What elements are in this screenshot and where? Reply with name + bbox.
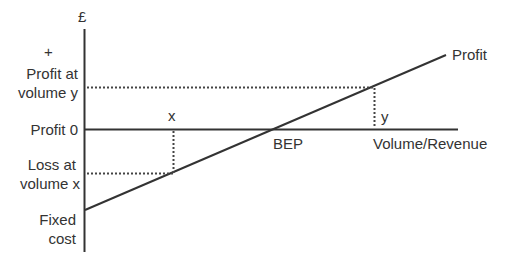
loss-at-x-line2: volume x <box>0 174 80 193</box>
profit-at-y-line1: Profit at <box>0 64 78 83</box>
profit-zero-label: Profit 0 <box>0 120 78 139</box>
positive-sign-label: + <box>44 42 53 61</box>
volume-y-label: y <box>381 107 389 126</box>
profit-at-volume-y-label: Profit at volume y <box>0 64 78 102</box>
volume-x-label: x <box>168 106 176 125</box>
loss-at-x-line1: Loss at <box>0 155 80 174</box>
fixed-cost-line2: cost <box>0 229 76 248</box>
fixed-cost-label: Fixed cost <box>0 210 76 248</box>
x-axis-label: Volume/Revenue <box>373 134 487 153</box>
break-even-point-label: BEP <box>273 134 303 153</box>
loss-at-volume-x-label: Loss at volume x <box>0 155 80 193</box>
y-axis-unit-label: £ <box>78 7 86 26</box>
profit-line <box>85 55 446 210</box>
profit-at-y-line2: volume y <box>0 83 78 102</box>
fixed-cost-line1: Fixed <box>0 210 76 229</box>
profit-line-label: Profit <box>452 45 487 64</box>
